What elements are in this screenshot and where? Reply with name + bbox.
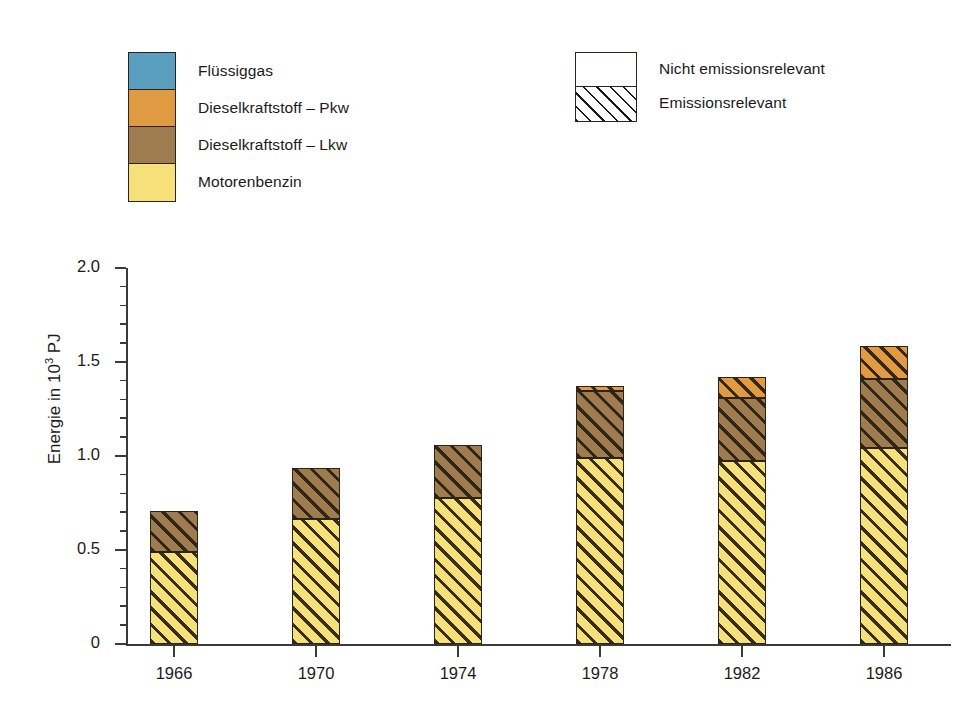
y-tick-1	[115, 455, 126, 457]
y-minor-tick	[120, 286, 126, 287]
bar-segment-1982-motorenbenzin	[718, 461, 766, 644]
y-axis-title-exponent: 3	[43, 358, 55, 364]
y-minor-tick	[120, 399, 126, 400]
bar-segment-1974-motorenbenzin	[434, 498, 482, 644]
y-minor-tick	[120, 568, 126, 569]
y-minor-tick	[120, 530, 126, 531]
bar-1986	[860, 0, 908, 644]
bar-1974	[434, 0, 482, 644]
bar-segment-1986-dieselkraftstoff-pkw	[860, 346, 908, 379]
y-axis-title-text: Energie in 10	[45, 364, 64, 464]
x-tick-label-1986: 1986	[844, 664, 924, 683]
x-tick-1966	[173, 645, 175, 657]
y-minor-tick	[120, 323, 126, 324]
bar-segment-1966-motorenbenzin	[150, 552, 198, 644]
y-tick-0	[115, 643, 126, 645]
bar-segment-1978-dieselkraftstoff-lkw	[576, 391, 624, 458]
x-tick-label-1970: 1970	[276, 664, 356, 683]
y-axis-title: Energie in 103 PJ	[43, 279, 65, 519]
bar-segment-1970-motorenbenzin	[292, 519, 340, 644]
x-tick-label-1974: 1974	[418, 664, 498, 683]
bar-1978	[576, 0, 624, 644]
y-minor-tick	[120, 305, 126, 306]
y-tick-1.5	[115, 361, 126, 363]
x-tick-1974	[457, 645, 459, 657]
bar-segment-1982-dieselkraftstoff-pkw	[718, 377, 766, 398]
y-minor-tick	[120, 342, 126, 343]
y-axis-title-unit: PJ	[45, 333, 64, 358]
x-tick-label-1978: 1978	[560, 664, 640, 683]
bar-segment-1978-motorenbenzin	[576, 458, 624, 644]
bar-segment-1986-dieselkraftstoff-lkw	[860, 379, 908, 449]
y-tick-label-0.5: 0.5	[32, 539, 100, 558]
x-tick-label-1982: 1982	[702, 664, 782, 683]
bar-segment-1970-dieselkraftstoff-lkw	[292, 468, 340, 519]
y-minor-tick	[120, 511, 126, 512]
x-tick-1982	[741, 645, 743, 657]
y-tick-label-0: 0	[32, 633, 100, 652]
y-minor-tick	[120, 493, 126, 494]
y-minor-tick	[120, 380, 126, 381]
bar-segment-1974-dieselkraftstoff-lkw	[434, 445, 482, 499]
plot-area: 2.01.51.00.50 196619701974197819821986 E…	[0, 0, 977, 711]
chart-canvas: FlüssiggasDieselkraftstoff – PkwDieselkr…	[0, 0, 977, 711]
bar-1966	[150, 0, 198, 644]
y-axis-line	[126, 268, 128, 645]
bar-1970	[292, 0, 340, 644]
x-axis-line	[126, 644, 951, 646]
y-minor-tick	[120, 605, 126, 606]
x-tick-label-1966: 1966	[134, 664, 214, 683]
y-minor-tick	[120, 474, 126, 475]
y-minor-tick	[120, 587, 126, 588]
bar-1982	[718, 0, 766, 644]
y-tick-2	[115, 267, 126, 269]
bar-segment-1986-motorenbenzin	[860, 448, 908, 644]
x-tick-1986	[883, 645, 885, 657]
y-minor-tick	[120, 417, 126, 418]
y-minor-tick	[120, 624, 126, 625]
y-minor-tick	[120, 436, 126, 437]
y-tick-0.5	[115, 549, 126, 551]
y-tick-label-2: 2.0	[32, 257, 100, 276]
x-tick-1978	[599, 645, 601, 657]
bar-segment-1966-dieselkraftstoff-lkw	[150, 511, 198, 552]
bar-segment-1978-dieselkraftstoff-pkw	[576, 386, 624, 392]
bar-segment-1982-dieselkraftstoff-lkw	[718, 398, 766, 461]
x-tick-1970	[315, 645, 317, 657]
